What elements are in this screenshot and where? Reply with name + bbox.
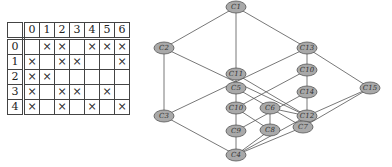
concept-node-c2: C2 — [154, 42, 174, 54]
node-label: C8 — [265, 126, 275, 134]
node-label: C3 — [159, 112, 169, 120]
node-label: C6 — [265, 104, 275, 112]
node-label: C13 — [300, 44, 315, 52]
node-label: C12 — [300, 112, 315, 120]
concept-node-c6: C6 — [260, 102, 280, 114]
concept-node-c5: C5 — [226, 82, 246, 94]
lattice-edge — [236, 7, 307, 48]
node-label: C1 — [231, 3, 241, 11]
lattice-edge — [164, 116, 236, 155]
concept-node-c3: C3 — [154, 110, 174, 122]
node-label: C10 — [229, 104, 244, 112]
node-label: C2 — [159, 44, 169, 52]
concept-node-c8: C8 — [260, 124, 280, 136]
concept-node-c11: C11 — [226, 68, 246, 80]
node-label: C7 — [298, 123, 308, 131]
node-label: C10 — [300, 66, 315, 74]
concept-node-c10r: C10 — [297, 64, 317, 76]
concept-node-c4: C4 — [226, 149, 246, 161]
node-label: C11 — [229, 70, 243, 78]
node-label: C4 — [231, 151, 241, 159]
node-label: C5 — [231, 84, 241, 92]
concept-node-c9: C9 — [226, 125, 246, 137]
concept-node-c15: C15 — [360, 82, 380, 94]
node-label: C9 — [231, 127, 241, 135]
concept-lattice-diagram: C1C2C13C11C5C10C15C14C3C10C6C12C9C8C7C4 — [0, 0, 392, 167]
concept-node-c14: C14 — [297, 86, 317, 98]
lattice-edge — [164, 7, 236, 48]
concept-node-c13: C13 — [297, 42, 317, 54]
concept-node-c7: C7 — [293, 121, 313, 133]
concept-node-c1: C1 — [226, 1, 246, 13]
concept-node-c12: C12 — [297, 110, 317, 122]
node-label: C15 — [363, 84, 378, 92]
concept-node-c10: C10 — [226, 102, 246, 114]
node-label: C14 — [300, 88, 314, 96]
